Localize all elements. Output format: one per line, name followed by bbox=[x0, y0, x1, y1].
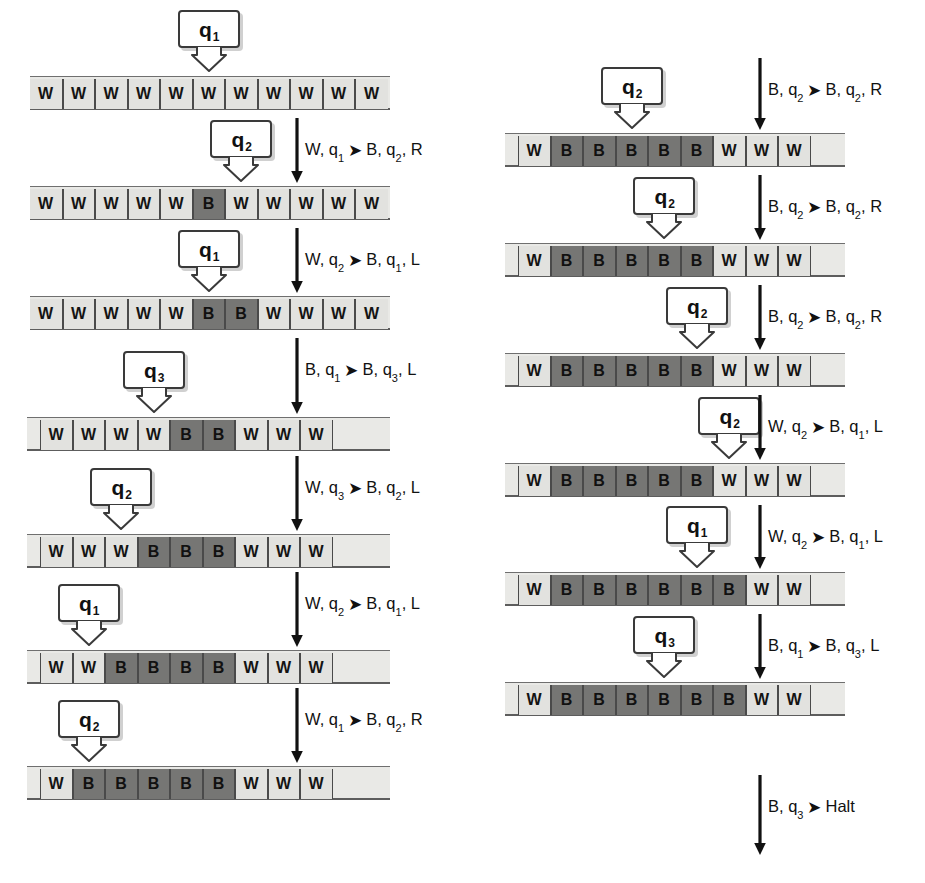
tape-cell: B bbox=[203, 537, 236, 567]
tape-cell: W bbox=[518, 246, 551, 276]
rule-arrow-icon: ➤ bbox=[803, 81, 825, 100]
tape-cells: WBBBBBWWW bbox=[518, 246, 811, 275]
state-pointer-icon bbox=[210, 156, 272, 182]
tape-left-margin bbox=[505, 134, 518, 165]
tape-right-5: WBBBBBBWW bbox=[505, 572, 845, 606]
tape-cell: W bbox=[300, 769, 333, 799]
state-label: q2 bbox=[79, 709, 99, 730]
tape-cell: B bbox=[203, 769, 236, 799]
transition-label-left-5: W, q2➤B, q1, L bbox=[305, 594, 420, 615]
tape-cell: B bbox=[648, 356, 681, 386]
tape-cell: W bbox=[518, 575, 551, 605]
tape-cell: W bbox=[713, 356, 746, 386]
tape-cell: W bbox=[235, 420, 268, 450]
tape-cell: B bbox=[583, 356, 616, 386]
state-pointer-icon bbox=[633, 652, 695, 678]
tape-cell: W bbox=[713, 136, 746, 166]
transition-arrow-left-2 bbox=[290, 228, 304, 293]
state-pointer-icon bbox=[90, 504, 152, 530]
rule-arrow-icon: ➤ bbox=[344, 711, 366, 730]
state-flag-right-5: q1 bbox=[666, 506, 728, 568]
tape-cell: W bbox=[518, 356, 551, 386]
tape-cell: B bbox=[616, 246, 649, 276]
tape-right-2: WBBBBBWWW bbox=[505, 243, 845, 277]
state-flag-box: q2 bbox=[633, 177, 695, 215]
tape-cell: B bbox=[138, 653, 171, 683]
tape-cell: W bbox=[193, 79, 226, 109]
tape-right-margin bbox=[811, 354, 831, 385]
turing-machine-trace-diagram: WWWWWWWWWWWq1WWWWWBWWWWWq2WWWWWBBWWWWq1W… bbox=[0, 0, 925, 883]
state-pointer-icon bbox=[666, 323, 728, 349]
rule-arrow-icon: ➤ bbox=[807, 418, 829, 437]
state-flag-box: q2 bbox=[210, 120, 272, 158]
state-label: q1 bbox=[199, 239, 219, 260]
tape-cell: W bbox=[518, 466, 551, 496]
tape-cell: B bbox=[616, 575, 649, 605]
rule-arrow-icon: ➤ bbox=[803, 637, 825, 656]
state-flag-right-3: q2 bbox=[666, 287, 728, 349]
tape-cell: W bbox=[290, 189, 323, 219]
tape-cell: B bbox=[616, 356, 649, 386]
tape-cell: W bbox=[518, 136, 551, 166]
transition-arrow-left-6 bbox=[290, 688, 304, 763]
transition-arrow-left-1 bbox=[290, 118, 304, 183]
tape-left-4: WWWWBBWWW bbox=[27, 417, 390, 451]
tape-right-margin bbox=[811, 683, 831, 714]
state-flag-left-7: q2 bbox=[58, 700, 120, 762]
tape-cell: W bbox=[268, 769, 301, 799]
tape-cell: B bbox=[170, 537, 203, 567]
state-label: q3 bbox=[654, 625, 674, 646]
tape-cells: WWWWWWWWWWW bbox=[30, 79, 388, 108]
state-label: q1 bbox=[199, 19, 219, 40]
rule-arrow-icon: ➤ bbox=[803, 798, 825, 817]
tape-cell: W bbox=[778, 136, 811, 166]
tape-right-6: WBBBBBBWW bbox=[505, 682, 845, 716]
tape-left-margin bbox=[27, 418, 40, 449]
tape-cell: B bbox=[193, 299, 226, 329]
transition-arrow-right-3 bbox=[753, 395, 767, 460]
tape-cell: B bbox=[713, 575, 746, 605]
tape-cell: W bbox=[290, 79, 323, 109]
tape-cell: B bbox=[681, 685, 714, 715]
tape-right-1: WBBBBBWWW bbox=[505, 133, 845, 167]
tape-right-3: WBBBBBWWW bbox=[505, 353, 845, 387]
state-flag-box: q1 bbox=[178, 230, 240, 268]
tape-cell: W bbox=[128, 189, 161, 219]
tape-left-7: WBBBBBWWW bbox=[27, 766, 390, 800]
tape-cell: B bbox=[203, 420, 236, 450]
state-flag-box: q3 bbox=[633, 616, 695, 654]
state-pointer-icon bbox=[178, 266, 240, 292]
tape-cell: W bbox=[258, 189, 291, 219]
tape-cell: W bbox=[300, 537, 333, 567]
tape-cell: W bbox=[746, 466, 779, 496]
tape-cell: W bbox=[160, 299, 193, 329]
state-label: q3 bbox=[144, 360, 164, 381]
tape-cell: W bbox=[746, 575, 779, 605]
rule-arrow-icon: ➤ bbox=[344, 595, 366, 614]
tape-cells: WBBBBBWWW bbox=[518, 356, 811, 385]
tape-cell: B bbox=[648, 685, 681, 715]
tape-cell: W bbox=[225, 79, 258, 109]
tape-cell: W bbox=[128, 79, 161, 109]
state-pointer-icon bbox=[633, 213, 695, 239]
tape-cell: B bbox=[583, 575, 616, 605]
tape-right-margin bbox=[333, 767, 357, 798]
transition-label-left-4: W, q3➤B, q2, L bbox=[305, 478, 420, 499]
state-flag-left-5: q2 bbox=[90, 468, 152, 530]
transition-label-right-2: B, q2➤B, q2, R bbox=[768, 307, 882, 328]
state-pointer-icon bbox=[698, 433, 760, 459]
state-flag-box: q2 bbox=[58, 700, 120, 738]
tape-cells: WWWBBBWWW bbox=[40, 537, 333, 566]
tape-right-margin bbox=[333, 651, 357, 682]
transition-label-left-6: W, q1➤B, q2, R bbox=[305, 710, 423, 731]
tape-cell: W bbox=[778, 246, 811, 276]
tape-cells: WWWWWBBWWWW bbox=[30, 299, 388, 328]
tape-cell: B bbox=[551, 466, 584, 496]
tape-left-margin bbox=[505, 464, 518, 495]
tape-cell: W bbox=[746, 356, 779, 386]
tape-cells: WWWWBBWWW bbox=[40, 420, 333, 449]
tape-cell: B bbox=[648, 246, 681, 276]
transition-label-right-6: B, q3➤Halt bbox=[768, 797, 855, 818]
tape-cell: W bbox=[300, 420, 333, 450]
tape-left-3: WWWWWBBWWWW bbox=[30, 296, 390, 330]
